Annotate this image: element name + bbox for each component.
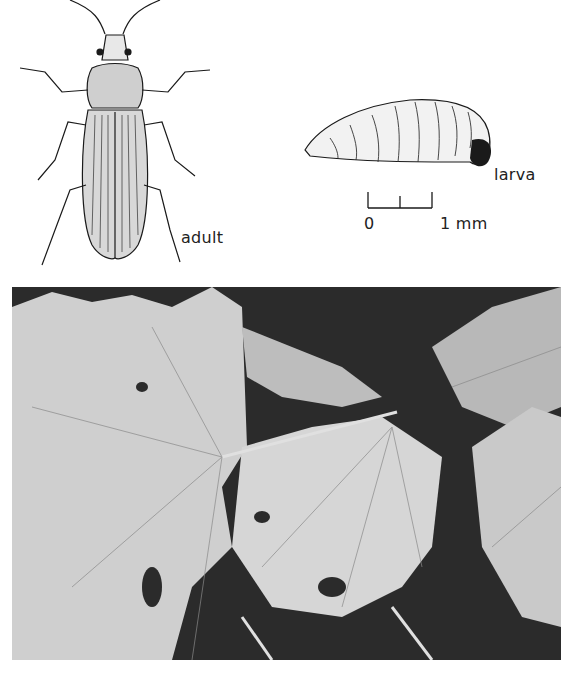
scale-start-label: 0 bbox=[364, 214, 374, 233]
larva-illustration bbox=[300, 90, 500, 170]
scale-bar bbox=[360, 188, 450, 210]
larva-label: larva bbox=[494, 165, 536, 184]
leaf-damage-photograph bbox=[12, 287, 561, 660]
adult-label: adult bbox=[181, 228, 223, 247]
scale-end-label: 1 mm bbox=[440, 214, 488, 233]
